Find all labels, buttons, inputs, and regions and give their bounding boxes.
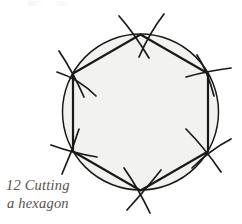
figure-caption-line-2: a hexagon xyxy=(6,194,70,212)
construction-circle xyxy=(63,34,219,190)
figure-cutting-a-hexagon: 12 Cutting a hexagon xyxy=(0,0,242,224)
figure-caption-line-1: 12 Cutting xyxy=(6,176,70,194)
figure-caption: 12 Cutting a hexagon xyxy=(6,176,70,212)
